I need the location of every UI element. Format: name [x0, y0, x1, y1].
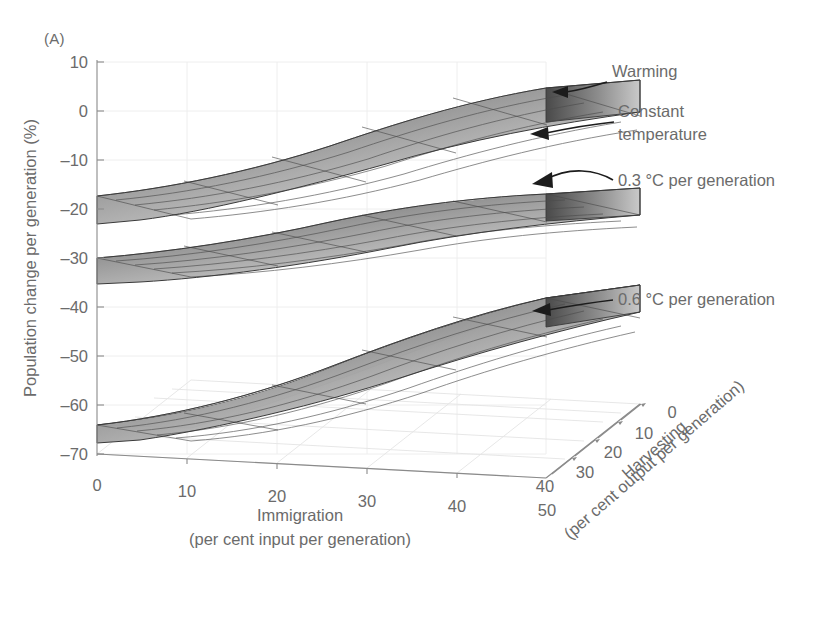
- y-tick: –50: [60, 347, 88, 365]
- z-tick: 30: [576, 463, 594, 481]
- x-axis-subtitle: (per cent input per generation): [189, 530, 411, 548]
- y-tick: –20: [60, 200, 88, 218]
- annotation-constant-temperature-line2: temperature: [618, 125, 707, 143]
- y-tick: 10: [70, 53, 88, 71]
- surface-plot-canvas: 10 0 –10 –20 –30 –40 –50 –60 –70 Populat…: [0, 0, 824, 623]
- panel-label: (A): [44, 30, 65, 47]
- annotation-rate-06-label: 0.6 °C per generation: [618, 290, 775, 308]
- x-axis-title: Immigration: [257, 506, 343, 524]
- z-tick: 20: [604, 443, 622, 461]
- figure-panel-a: (A): [0, 0, 824, 623]
- x-tick: 0: [92, 476, 101, 494]
- annotation-warming-label: Warming: [612, 62, 677, 80]
- y-tick: –40: [60, 298, 88, 316]
- y-tick: –10: [60, 151, 88, 169]
- x-tick: 30: [358, 492, 376, 510]
- annotation-constant-temperature-line1: Constant: [618, 102, 684, 120]
- annotation-rate-03: 0.3 °C per generation: [532, 171, 775, 189]
- x-tick: 20: [268, 487, 286, 505]
- y-tick: –70: [60, 445, 88, 463]
- annotation-rate-03-label: 0.3 °C per generation: [618, 171, 775, 189]
- x-tick: 10: [178, 482, 196, 500]
- y-tick: 0: [79, 102, 88, 120]
- x-tick: 50: [538, 501, 556, 519]
- y-tick: –60: [60, 396, 88, 414]
- z-tick: 40: [536, 477, 554, 495]
- z-tick: 10: [635, 424, 653, 442]
- x-tick: 40: [448, 497, 466, 515]
- y-axis-title: Population change per generation (%): [21, 119, 39, 397]
- y-tick-labels: 10 0 –10 –20 –30 –40 –50 –60 –70: [60, 53, 88, 463]
- y-tick: –30: [60, 249, 88, 267]
